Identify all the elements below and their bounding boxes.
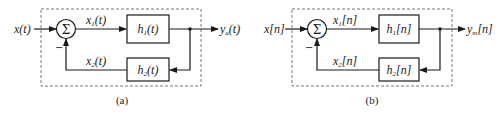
caption-a: (a) (116, 94, 129, 107)
input-label-b: x[n] (263, 22, 285, 36)
output-label-a: ya(t) (219, 22, 240, 37)
diagram-b: x[n] Σ − x1[n] h1[n] ym[n] h2[n] x2[n] (… (263, 9, 493, 107)
feedback-signal-label-a: x2(t) (85, 54, 106, 69)
minus-sign-b: − (305, 42, 313, 53)
forward-signal-label-a: x1(t) (85, 13, 106, 28)
forward-block-label-a: h1(t) (138, 22, 159, 37)
forward-block-label-b: h1[n] (387, 22, 412, 37)
input-label-a: x(t) (13, 22, 31, 36)
sigma-icon-a: Σ (62, 23, 70, 37)
caption-b: (b) (366, 94, 379, 107)
feedback-block-diagrams: x(t) Σ − x1(t) h1(t) ya(t) h2(t) x2(t) (… (0, 0, 502, 118)
feedback-return-arrow-b (420, 29, 440, 70)
output-label-b: ym[n] (466, 22, 493, 37)
sigma-icon-b: Σ (313, 23, 321, 37)
forward-signal-label-b: x1[n] (332, 13, 357, 28)
feedback-signal-label-b: x2[n] (332, 54, 357, 69)
feedback-return-arrow-a (170, 29, 190, 70)
diagram-a: x(t) Σ − x1(t) h1(t) ya(t) h2(t) x2(t) (… (13, 9, 240, 107)
minus-sign-a: − (55, 42, 63, 53)
feedback-block-label-a: h2(t) (138, 63, 159, 78)
feedback-block-label-b: h2[n] (387, 63, 412, 78)
